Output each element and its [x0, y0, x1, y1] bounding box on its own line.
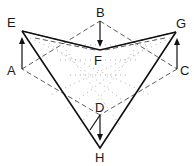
label-a: A — [7, 63, 16, 78]
arrow-up-icon — [174, 38, 180, 45]
vertex-connectors — [19, 21, 180, 141]
fold-diagram: E B G F A C D H — [0, 0, 194, 166]
arrow-up-icon — [19, 37, 25, 44]
label-c: C — [180, 63, 189, 78]
label-f: F — [94, 53, 102, 68]
arrow-down-icon — [97, 40, 103, 47]
label-e: E — [7, 15, 16, 30]
arrow-down-icon — [97, 134, 103, 141]
label-b: B — [96, 5, 105, 20]
label-h: H — [95, 150, 104, 165]
label-d: D — [95, 100, 104, 115]
folded-surface-outline — [22, 31, 176, 148]
label-g: G — [176, 16, 186, 31]
